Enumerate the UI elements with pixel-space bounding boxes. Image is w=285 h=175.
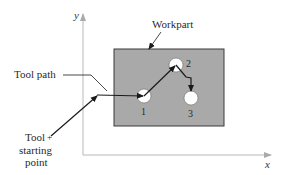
workpart-leader	[149, 32, 161, 49]
tool-path-diagram: y x Workpart 1 2 3 Tool path Tool starti…	[0, 0, 285, 175]
start-point-marker: +	[47, 132, 52, 142]
y-axis-label: y	[73, 9, 79, 21]
path-start-to-corner	[51, 96, 97, 136]
tool-starting-label-line1: Tool	[25, 131, 45, 143]
tool-path-label: Tool path	[14, 68, 56, 80]
workpart	[114, 49, 224, 126]
x-axis-label: x	[264, 158, 270, 170]
point-2-label: 2	[186, 58, 191, 69]
point-3-label: 3	[188, 108, 193, 119]
workpart-label: Workpart	[152, 18, 193, 30]
tool-starting-label-line3: point	[25, 156, 48, 168]
point-1-label: 1	[141, 106, 146, 117]
hole-3	[184, 91, 198, 105]
tool-path-leader	[63, 75, 107, 91]
tool-starting-label-line2: starting	[19, 144, 52, 156]
